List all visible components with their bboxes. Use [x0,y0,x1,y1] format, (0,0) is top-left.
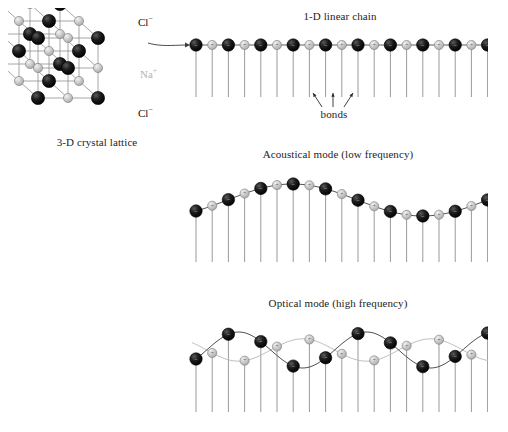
lattice-chloride-ion [91,31,104,44]
sodium-ion: + [370,202,379,211]
optical-mode-title: Optical mode (high frequency) [269,297,408,309]
mode-stems [196,333,488,412]
chloride-ion: − [481,194,488,206]
bonds-label: bonds [321,108,348,120]
lattice-sodium-ion [74,16,83,25]
svg-text:−: − [454,353,458,359]
bond-pointer-arrow-3 [344,93,353,107]
acoustical-wave [192,184,488,216]
chloride-ion: − [287,178,299,190]
svg-text:−: − [486,42,488,48]
sodium-ion: + [467,201,476,210]
lattice-sodium-ion [63,93,72,102]
svg-text:−: − [292,181,296,187]
sodium-ion: + [305,40,314,49]
sodium-ion: + [305,181,314,190]
chloride-ion: − [287,39,299,51]
sodium-ion: + [337,349,346,358]
sodium-ion: + [402,341,411,350]
chloride-ion: − [384,337,396,349]
svg-text:+: + [373,42,377,48]
figure-canvas: 3-D crystal lattice 1-D linear chain −+−… [0,0,508,432]
acoustical-mode-diagram: −+−+−+−+−+−+−+−+−+− [148,165,488,280]
bond-pointer-arrow-1 [313,93,322,107]
svg-text:+: + [470,351,474,357]
chloride-ion: − [190,205,202,217]
sodium-ion: + [370,40,379,49]
chloride-ion: − [417,39,429,51]
svg-text:−: − [227,42,231,48]
ion-charge: − [148,105,152,114]
svg-text:+: + [211,42,215,48]
chloride-ion: − [222,39,234,51]
lattice-chloride-ion [72,44,85,57]
sodium-ion: + [434,210,443,219]
ion-charge: + [153,66,157,75]
svg-text:−: − [292,363,296,369]
chloride-ion: − [384,39,396,51]
sodium-ion: + [272,40,281,49]
sodium-ion: + [402,210,411,219]
sodium-ion: + [272,181,281,190]
svg-text:−: − [389,208,393,214]
ion-charge: − [148,14,152,23]
chloride-ion: − [449,205,461,217]
sodium-ion: + [208,201,217,210]
chloride-ion: − [417,210,429,222]
svg-text:−: − [389,339,393,345]
sodium-ion: + [434,40,443,49]
sodium-ion: + [402,40,411,49]
linear-chain-diagram: −+−+−+−+−+−+−+−+−+− [148,20,488,150]
sodium-ion: + [467,350,476,359]
lattice-sodium-ion [14,76,23,85]
bond-pointer-arrow-2 [331,93,334,107]
svg-text:−: − [454,42,458,48]
lattice-to-chain-arrow [148,28,188,45]
svg-text:+: + [373,203,377,209]
svg-text:+: + [308,42,312,48]
svg-text:+: + [308,336,312,342]
lattice-ion-label-cl-top: Cl− [138,14,153,28]
sodium-ion: + [272,342,281,351]
chloride-ion: − [190,39,202,51]
acoustical-mode-title: Acoustical mode (low frequency) [263,148,414,160]
lattice-chloride-ion [42,14,55,27]
sodium-ion: + [240,40,249,49]
svg-text:−: − [292,42,296,48]
chloride-ion: − [222,193,234,205]
optical-mode-diagram: −+−+−+−+−+−+−+−+−+− [148,315,488,432]
sodium-ion: + [208,348,217,357]
svg-text:−: − [486,330,488,336]
lattice-chloride-ion [42,74,55,87]
sodium-ion: + [208,40,217,49]
ion-symbol: Na [140,68,153,80]
chloride-ion: − [449,39,461,51]
sodium-ion: + [337,40,346,49]
lattice-to-chain-arrowhead [185,42,190,47]
lattice-chloride-ion [31,91,44,104]
lattice-sodium-ion [74,76,83,85]
sodium-ion: + [305,335,314,344]
chloride-ion: − [417,360,429,372]
svg-text:−: − [227,331,231,337]
chloride-ion: − [481,327,488,339]
svg-text:−: − [486,197,488,203]
lattice-chloride-ion [91,91,104,104]
lattice-sodium-ion [63,33,72,42]
chloride-ion: − [190,353,202,365]
svg-text:+: + [470,203,474,209]
chloride-ion: − [255,39,267,51]
chloride-ion: − [222,328,234,340]
lattice-caption: 3-D crystal lattice [57,136,138,148]
svg-text:−: − [454,208,458,214]
sodium-ion: + [240,189,249,198]
chloride-ion: − [352,39,364,51]
lattice-sodium-ion [33,63,42,72]
svg-text:−: − [227,196,231,202]
lattice-sodium-ion [25,8,34,9]
chloride-ion: − [287,360,299,372]
sodium-ion: + [337,189,346,198]
ion-symbol: Cl [138,107,148,119]
chloride-ion: − [481,39,488,51]
lattice-sodium-ion [44,46,53,55]
